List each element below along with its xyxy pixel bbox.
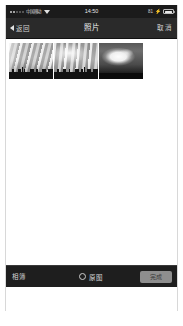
bolt-icon: ⚡ (155, 9, 161, 14)
done-button[interactable]: 完成 (140, 271, 172, 283)
photo-thumbnail[interactable] (54, 43, 98, 79)
battery-fill (165, 11, 173, 13)
page-title: 照片 (6, 18, 177, 38)
phone-screen: 中国移动 14:50 81 ⚡ 返回 照片 取消 (5, 5, 178, 311)
thumbnail-strip (6, 39, 177, 79)
original-size-label: 原图 (89, 272, 104, 282)
ground-silhouette (99, 73, 143, 79)
cancel-button[interactable]: 取消 (157, 18, 172, 38)
skyline-silhouette (54, 72, 98, 79)
home-indicator-area (6, 287, 177, 311)
photo-thumbnail[interactable] (9, 43, 53, 79)
photo-grid (6, 39, 177, 288)
status-bar: 中国移动 14:50 81 ⚡ (6, 5, 177, 18)
navigation-bar: 返回 照片 取消 (6, 18, 177, 39)
bottom-toolbar: 相簿 原图 完成 (6, 265, 177, 287)
photo-thumbnail[interactable] (99, 43, 143, 79)
status-bar-right: 81 ⚡ (148, 5, 174, 18)
battery-icon (163, 9, 174, 14)
skyline-silhouette (9, 72, 53, 79)
radio-unchecked-icon[interactable] (79, 273, 86, 280)
battery-percent-label: 81 (148, 5, 153, 18)
